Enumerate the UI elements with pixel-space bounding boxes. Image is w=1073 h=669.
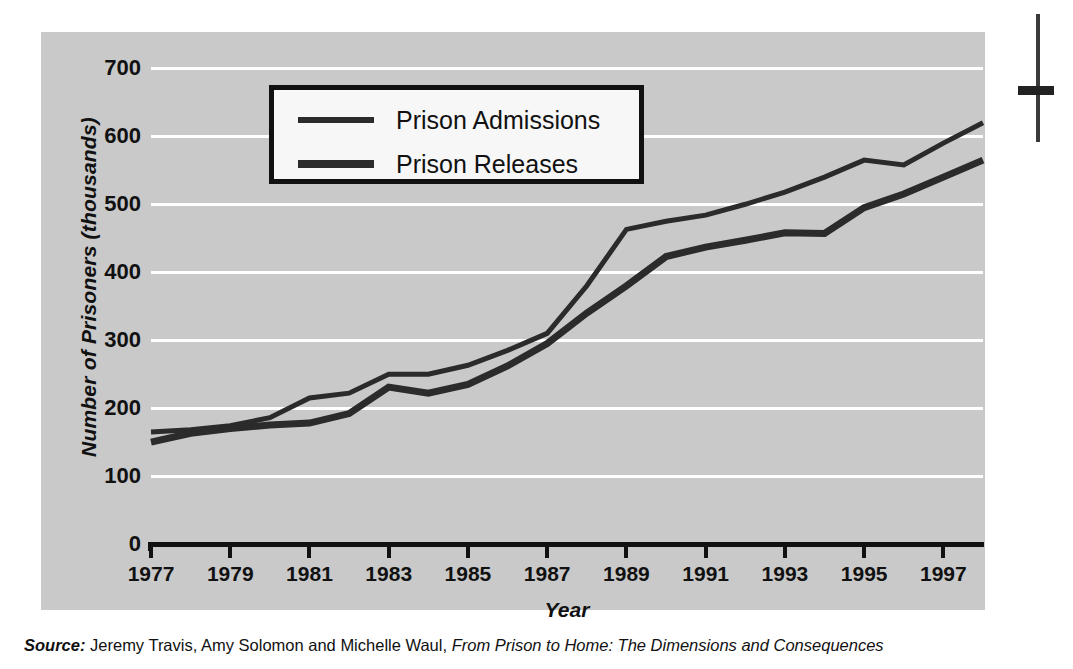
y-tick-label: 0 bbox=[129, 531, 141, 557]
chart-panel: Number of Prisoners (thousands) 01002003… bbox=[41, 32, 985, 610]
y-tick-label: 100 bbox=[104, 463, 141, 489]
x-tick bbox=[545, 547, 549, 558]
x-axis-left-cap bbox=[148, 542, 153, 551]
legend-label: Prison Releases bbox=[396, 150, 578, 179]
y-tick-label: 400 bbox=[104, 259, 141, 285]
x-tick-label: 1993 bbox=[762, 562, 809, 586]
legend-label: Prison Admissions bbox=[396, 106, 600, 135]
y-tick-label: 600 bbox=[104, 123, 141, 149]
source-title: From Prison to Home: The Dimensions and … bbox=[452, 636, 884, 654]
adjacent-figure-legend-fragment bbox=[1036, 14, 1073, 142]
x-tick bbox=[783, 547, 787, 558]
x-axis-line bbox=[148, 542, 984, 547]
source-caption: Source: Jeremy Travis, Amy Solomon and M… bbox=[24, 636, 1064, 655]
chart-legend: Prison AdmissionsPrison Releases bbox=[269, 85, 644, 184]
legend-line-icon bbox=[298, 160, 374, 168]
legend-line-icon bbox=[298, 117, 374, 123]
x-tick bbox=[387, 547, 391, 558]
source-authors: Jeremy Travis, Amy Solomon and Michelle … bbox=[90, 636, 447, 654]
series-line bbox=[151, 160, 983, 442]
x-axis-title: Year bbox=[151, 598, 983, 622]
x-tick-label: 1991 bbox=[682, 562, 729, 586]
x-tick bbox=[624, 547, 628, 558]
legend-item: Prison Releases bbox=[274, 142, 639, 186]
y-tick-label: 200 bbox=[104, 395, 141, 421]
y-tick-label: 500 bbox=[104, 191, 141, 217]
x-tick-label: 1977 bbox=[128, 562, 175, 586]
y-tick-label: 300 bbox=[104, 327, 141, 353]
source-label: Source: bbox=[24, 636, 85, 654]
x-tick-label: 1983 bbox=[365, 562, 412, 586]
x-tick bbox=[307, 547, 311, 558]
x-tick-label: 1979 bbox=[207, 562, 254, 586]
x-tick bbox=[862, 547, 866, 558]
y-axis-title: Number of Prisoners (thousands) bbox=[77, 87, 101, 487]
x-tick-label: 1985 bbox=[445, 562, 492, 586]
legend-item: Prison Admissions bbox=[274, 98, 639, 142]
x-tick-label: 1995 bbox=[841, 562, 888, 586]
x-tick bbox=[228, 547, 232, 558]
adjacent-figure-legend-dash-icon bbox=[1018, 86, 1054, 95]
x-tick bbox=[466, 547, 470, 558]
y-tick-label: 700 bbox=[104, 55, 141, 81]
x-tick bbox=[704, 547, 708, 558]
x-tick-label: 1981 bbox=[286, 562, 333, 586]
x-tick-label: 1987 bbox=[524, 562, 571, 586]
x-tick-label: 1989 bbox=[603, 562, 650, 586]
x-tick bbox=[941, 547, 945, 558]
prison-admissions-releases-figure: Number of Prisoners (thousands) 01002003… bbox=[0, 0, 1073, 669]
x-tick-label: 1997 bbox=[920, 562, 967, 586]
